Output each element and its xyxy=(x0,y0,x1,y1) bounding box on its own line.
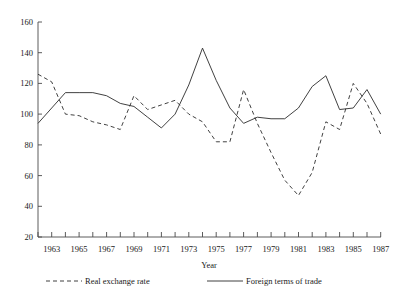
x-tick-label: 1977 xyxy=(235,244,252,254)
x-axis-title: Year xyxy=(201,260,217,270)
x-tick-label: 1975 xyxy=(208,244,225,254)
x-tick-label: 1985 xyxy=(345,244,362,254)
y-tick-label: 60 xyxy=(25,171,34,181)
y-axis: 160 140 120 100 80 60 40 20 xyxy=(20,17,42,242)
x-tick-label: 1969 xyxy=(126,244,143,254)
chart-container: 160 140 120 100 80 60 40 20 xyxy=(0,0,401,299)
series-foreign-terms-of-trade xyxy=(38,48,381,128)
y-axis-tick-labels: 160 140 120 100 80 60 40 20 xyxy=(20,17,33,242)
x-axis: 1963 1965 1967 1969 1971 1973 1975 1977 … xyxy=(38,232,389,270)
series-group xyxy=(38,48,381,195)
x-tick-label: 1979 xyxy=(263,244,280,254)
y-tick-label: 120 xyxy=(20,78,33,88)
legend: Real exchange rate Foreign terms of trad… xyxy=(46,276,322,286)
y-tick-label: 80 xyxy=(25,140,34,150)
x-tick-label: 1971 xyxy=(153,244,170,254)
legend-label-foreign-terms-of-trade: Foreign terms of trade xyxy=(246,276,322,286)
legend-label-real-exchange-rate: Real exchange rate xyxy=(85,276,150,286)
x-tick-label: 1973 xyxy=(180,244,197,254)
x-tick-label: 1981 xyxy=(290,244,307,254)
y-tick-label: 100 xyxy=(20,109,33,119)
y-axis-ticks xyxy=(38,22,42,237)
line-chart: 160 140 120 100 80 60 40 20 xyxy=(0,0,401,299)
y-tick-label: 40 xyxy=(25,201,34,211)
x-tick-label: 1983 xyxy=(317,244,334,254)
x-tick-label: 1967 xyxy=(98,244,115,254)
y-tick-label: 160 xyxy=(20,17,33,27)
x-axis-ticks xyxy=(38,232,381,237)
x-tick-label: 1987 xyxy=(372,244,389,254)
y-tick-label: 140 xyxy=(20,48,33,58)
y-tick-label: 20 xyxy=(25,232,34,242)
x-axis-tick-labels: 1963 1965 1967 1969 1971 1973 1975 1977 … xyxy=(43,244,389,254)
x-tick-label: 1965 xyxy=(71,244,88,254)
x-tick-label: 1963 xyxy=(43,244,60,254)
